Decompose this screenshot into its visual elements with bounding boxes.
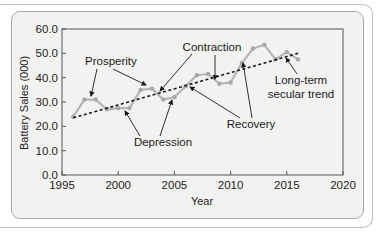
data-point <box>217 82 221 86</box>
x-tick-label: 2010 <box>218 179 244 191</box>
data-point <box>296 57 300 61</box>
recovery-label: Recovery <box>227 118 276 130</box>
x-tick-label: 2015 <box>274 179 300 191</box>
y-tick-label: 20.0 <box>36 120 58 132</box>
y-axis-title: Battery Sales (000) <box>18 56 30 150</box>
prosperity-label: Prosperity <box>85 55 137 67</box>
data-point <box>262 43 266 47</box>
y-tick-label: 10.0 <box>36 145 58 157</box>
y-tick-label: 50.0 <box>36 47 58 59</box>
data-point <box>228 80 232 84</box>
data-point <box>285 50 289 54</box>
data-point <box>150 86 154 90</box>
depression-label: Depression <box>134 136 192 148</box>
x-tick-label: 2020 <box>330 179 356 191</box>
x-tick-label: 1995 <box>49 179 75 191</box>
data-point <box>127 106 131 110</box>
contraction-label: Contraction <box>183 41 242 53</box>
trend-label-line2: secular trend <box>268 88 334 100</box>
data-point <box>195 73 199 77</box>
y-tick-label: 30.0 <box>36 96 58 108</box>
line-chart: 0.010.020.030.040.050.060.01995200020052… <box>0 0 382 234</box>
data-point <box>138 88 142 92</box>
y-tick-label: 40.0 <box>36 72 58 84</box>
data-point <box>116 106 120 110</box>
data-point <box>94 97 98 101</box>
data-point <box>161 97 165 101</box>
x-axis-title: Year <box>191 195 214 207</box>
y-tick-label: 60.0 <box>36 23 58 35</box>
data-point <box>206 72 210 76</box>
data-point <box>172 95 176 99</box>
x-tick-label: 2000 <box>105 179 131 191</box>
x-tick-label: 2005 <box>162 179 188 191</box>
trend-label-line1: Long-term <box>275 74 327 86</box>
data-point <box>251 46 255 50</box>
data-point <box>82 97 86 101</box>
